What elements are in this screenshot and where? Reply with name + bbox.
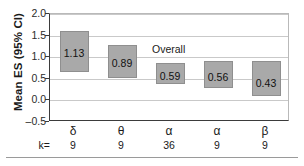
k-value: 9 (49, 139, 97, 151)
bar-value-label: 1.13 (61, 47, 88, 59)
y-axis-tick-label: 0.5 (6, 72, 46, 84)
figure-chart-forest-bars: Mean ES (95% CI) 2.01.51.00.50.0–0.5 1.1… (0, 0, 304, 166)
y-axis-tick-label: 1.5 (6, 29, 46, 41)
x-axis-category-label: α (193, 124, 241, 138)
y-axis-tick-label: 0.0 (6, 93, 46, 105)
ci-bar: 1.13 (60, 31, 89, 72)
bar-value-label: 0.56 (205, 71, 232, 83)
x-axis-category-label: α (145, 124, 193, 138)
x-axis-category-label: δ (49, 124, 97, 138)
plot-area: 1.130.890.590.560.43 Overall (49, 13, 289, 121)
x-axis-category-label: β (241, 124, 289, 138)
ci-bar: 0.89 (108, 45, 137, 78)
gridline (50, 100, 288, 101)
k-row-header: k= (14, 139, 50, 151)
ci-bar: 0.43 (252, 61, 281, 97)
ci-bar: 0.59 (156, 63, 185, 84)
bottom-rule (6, 157, 298, 158)
k-value: 9 (193, 139, 241, 151)
k-value: 9 (241, 139, 289, 151)
k-value: 9 (97, 139, 145, 151)
y-axis-tick-label: –0.5 (6, 115, 46, 127)
gridline (50, 14, 288, 15)
k-value: 36 (145, 139, 193, 151)
ci-bar: 0.56 (204, 61, 233, 89)
bar-value-label: 0.43 (253, 77, 280, 89)
y-axis-tick-label: 2.0 (6, 7, 46, 19)
y-axis-tick-mark (45, 121, 49, 122)
overall-annotation: Overall (152, 43, 185, 55)
x-axis-category-label: θ (97, 124, 145, 138)
y-axis-tick-label: 1.0 (6, 50, 46, 62)
bar-value-label: 0.89 (109, 57, 136, 69)
bar-value-label: 0.59 (157, 70, 184, 82)
